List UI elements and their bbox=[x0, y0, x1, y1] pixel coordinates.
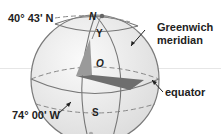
longitude-label: 74° 00' W bbox=[12, 110, 60, 121]
equator-label: equator bbox=[165, 87, 205, 98]
north-pole-point bbox=[100, 14, 104, 18]
greenwich-label-line1: Greenwich bbox=[157, 22, 213, 33]
south-pole-label: S bbox=[92, 107, 99, 118]
point-y-label: Y bbox=[96, 28, 103, 39]
greenwich-label-line2: meridian bbox=[157, 35, 203, 46]
north-pole-label: N bbox=[89, 11, 96, 22]
origin-label: O bbox=[96, 58, 104, 69]
latitude-label: 40° 43' N bbox=[8, 13, 54, 24]
